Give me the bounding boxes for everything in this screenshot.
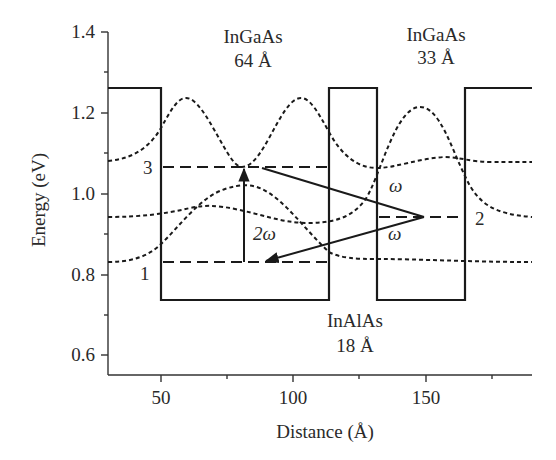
quantum-well-diagram: 1.4 1.2 1.0 0.8 0.6 50 100 150 Distance … [0, 0, 556, 460]
barrier-width-label: 18 Å [336, 335, 374, 356]
omega-upper-label: ω [389, 175, 402, 196]
wavefunction-3 [108, 98, 532, 168]
wavefunction-2 [108, 107, 532, 223]
well2-width-label: 33 Å [417, 47, 455, 68]
x-tick-label: 100 [279, 387, 308, 408]
y-tick-label: 1.4 [71, 21, 95, 42]
y-tick-label: 0.6 [71, 344, 95, 365]
y-tick-labels: 1.4 1.2 1.0 0.8 0.6 [71, 21, 95, 365]
y-tick-label: 0.8 [71, 264, 95, 285]
x-tick-label: 50 [152, 387, 171, 408]
wavefunctions [108, 98, 532, 262]
axes [101, 32, 532, 382]
y-tick-label: 1.2 [71, 102, 95, 123]
omega-lower-label: ω [388, 223, 401, 244]
level-3-label: 3 [143, 157, 153, 178]
barrier-material-label: InAlAs [327, 310, 383, 331]
x-axis-title: Distance (Å) [276, 421, 374, 443]
well2-material-label: InGaAs [406, 24, 465, 45]
wavefunction-1 [108, 185, 532, 262]
x-tick-label: 150 [412, 387, 441, 408]
level-1-label: 1 [140, 263, 150, 284]
two-omega-label: 2ω [253, 223, 276, 244]
level-2-label: 2 [475, 208, 485, 229]
y-axis-title: Energy (eV) [28, 153, 50, 247]
y-tick-label: 1.0 [71, 183, 95, 204]
well1-width-label: 64 Å [234, 50, 272, 71]
x-tick-labels: 50 100 150 [152, 387, 441, 408]
well1-material-label: InGaAs [223, 26, 282, 47]
conduction-band-profile [108, 88, 532, 300]
